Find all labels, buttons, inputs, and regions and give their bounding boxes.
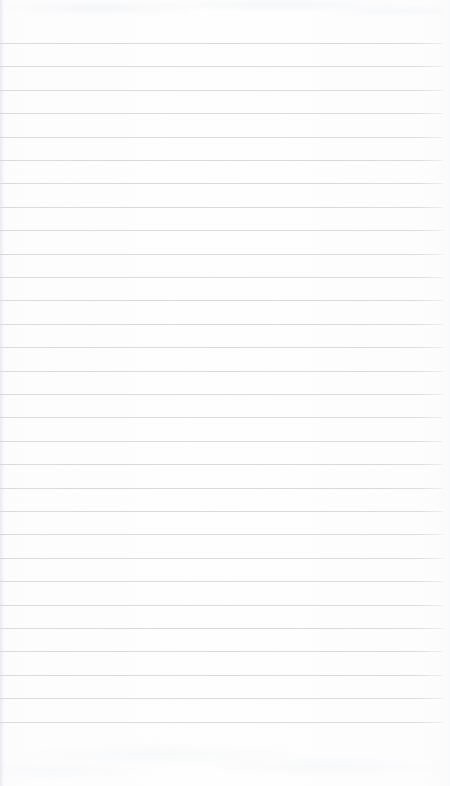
writing-area[interactable] [0,43,443,729]
scanned-notepad-page [0,0,450,786]
